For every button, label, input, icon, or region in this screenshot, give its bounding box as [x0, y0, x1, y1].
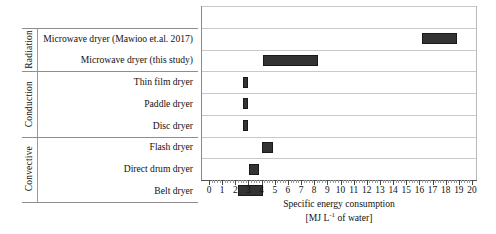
x-tick-minor: [254, 180, 255, 183]
group-separator: [22, 137, 198, 138]
row-separator: [202, 6, 476, 7]
bar-thin-film-dryer: [243, 77, 248, 88]
row-label: Disc dryer: [40, 121, 197, 131]
x-tick-minor: [390, 180, 391, 183]
x-tick-minor: [454, 180, 455, 183]
x-tick-minor: [296, 180, 297, 183]
x-tick-minor: [467, 180, 468, 183]
x-tick-minor: [230, 180, 231, 183]
row-separator: [202, 28, 476, 29]
x-tick-minor: [348, 180, 349, 183]
x-tick-minor: [377, 180, 378, 183]
x-tick-minor: [322, 180, 323, 183]
x-tick-minor: [359, 180, 360, 183]
x-tick-minor: [291, 180, 292, 183]
group-label-conduction: Conduction: [22, 71, 38, 136]
x-tick-minor: [298, 180, 299, 183]
x-tick-minor: [243, 180, 244, 183]
x-tick-minor: [414, 180, 415, 183]
x-tick-minor: [227, 180, 228, 183]
x-tick-minor: [333, 180, 334, 183]
x-tick-minor: [309, 180, 310, 183]
bar-direct-drum-dryer: [249, 164, 260, 175]
row-label: Microwave dryer (Mawioo et.al. 2017): [40, 34, 197, 44]
x-axis-unit-pre: [MJ L: [306, 212, 330, 223]
x-tick-minor: [212, 180, 213, 183]
x-tick-minor: [396, 180, 397, 183]
x-tick-minor: [256, 180, 257, 183]
x-tick-minor: [362, 180, 363, 183]
x-tick-minor: [264, 180, 265, 183]
row-label: Flash dryer: [40, 142, 197, 152]
x-tick-minor: [343, 180, 344, 183]
x-tick-minor: [438, 180, 439, 183]
x-tick-minor: [233, 180, 234, 183]
plot-area: [201, 6, 477, 180]
x-tick-minor: [356, 180, 357, 183]
row-separator: [202, 50, 476, 51]
row-label: Microwave dryer (this study): [40, 55, 197, 65]
group-spine: [37, 137, 38, 202]
x-tick-minor: [412, 180, 413, 183]
row-label: Belt dryer: [40, 186, 197, 196]
x-tick-minor: [225, 180, 226, 183]
x-tick-minor: [330, 180, 331, 183]
x-tick-minor: [443, 180, 444, 183]
x-tick-minor: [272, 180, 273, 183]
group-separator: [22, 202, 198, 203]
x-tick-minor: [319, 180, 320, 183]
row-separator: [202, 71, 476, 72]
bar-microwave-dryer-this-study: [263, 55, 318, 66]
x-tick-minor: [435, 180, 436, 183]
x-tick-minor: [346, 180, 347, 183]
group-label-text: Convective: [25, 146, 35, 191]
x-tick-minor: [306, 180, 307, 183]
x-tick-minor: [388, 180, 389, 183]
x-tick-minor: [425, 180, 426, 183]
x-tick-minor: [469, 180, 470, 183]
row-separator: [202, 93, 476, 94]
x-tick-minor: [220, 180, 221, 183]
x-tick-minor: [427, 180, 428, 183]
row-label: Thin film dryer: [40, 77, 197, 87]
bar-flash-dryer: [262, 142, 273, 153]
x-tick-minor: [440, 180, 441, 183]
x-axis-title-line1: Specific energy consumption: [201, 198, 477, 209]
x-tick-minor: [325, 180, 326, 183]
x-tick-minor: [409, 180, 410, 183]
x-tick-minor: [304, 180, 305, 183]
row-separator: [202, 158, 476, 159]
x-tick-minor: [383, 180, 384, 183]
x-tick-minor: [404, 180, 405, 183]
x-tick-label: 20: [462, 186, 482, 195]
x-tick-minor: [246, 180, 247, 183]
x-tick-minor: [430, 180, 431, 183]
row-label: Direct drum dryer: [40, 164, 197, 174]
x-tick-minor: [401, 180, 402, 183]
x-tick-minor: [351, 180, 352, 183]
bar-disc-dryer: [243, 120, 248, 131]
x-tick-minor: [422, 180, 423, 183]
x-tick-minor: [285, 180, 286, 183]
x-tick-minor: [241, 180, 242, 183]
group-separator: [22, 71, 198, 72]
group-label-text: Radiation: [25, 30, 35, 69]
row-separator: [202, 115, 476, 116]
x-tick-minor: [312, 180, 313, 183]
group-spine: [37, 71, 38, 136]
x-tick-minor: [214, 180, 215, 183]
x-tick-minor: [448, 180, 449, 183]
row-label: Paddle dryer: [40, 99, 197, 109]
x-tick-minor: [238, 180, 239, 183]
group-label-radiation: Radiation: [22, 28, 38, 72]
group-spine: [37, 28, 38, 72]
bar-paddle-dryer: [243, 98, 248, 109]
x-tick-minor: [317, 180, 318, 183]
group-label-convective: Convective: [22, 137, 38, 202]
x-tick-minor: [277, 180, 278, 183]
x-tick-minor: [293, 180, 294, 183]
group-label-text: Conduction: [25, 81, 35, 127]
x-tick-minor: [451, 180, 452, 183]
x-axis-unit-post: of water]: [335, 212, 372, 223]
x-tick-minor: [364, 180, 365, 183]
